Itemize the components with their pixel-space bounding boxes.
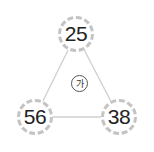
node-bottom-left: 56 bbox=[17, 99, 53, 135]
center-label: 가 bbox=[76, 77, 84, 90]
node-bottom-left-value: 56 bbox=[24, 105, 46, 129]
node-bottom-right: 38 bbox=[101, 99, 137, 135]
center-label-circled: 가 bbox=[71, 75, 88, 92]
node-top-value: 25 bbox=[65, 22, 87, 46]
node-top: 25 bbox=[58, 16, 94, 52]
node-bottom-right-value: 38 bbox=[108, 105, 130, 129]
